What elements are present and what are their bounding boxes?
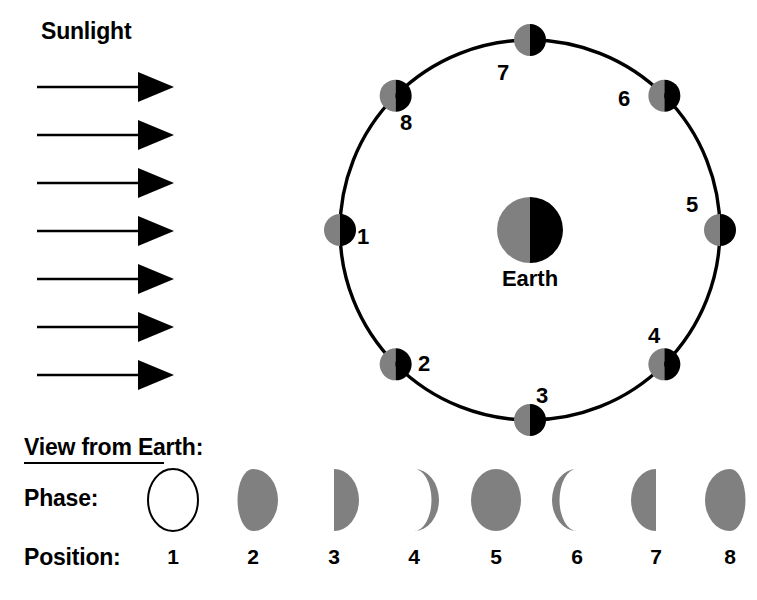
position-number-6: 6 [557,546,597,567]
phase-shapes-group [0,0,757,600]
phase-shape-4-waxing-gibbous [414,469,439,531]
phase-shape-5-full [471,469,521,531]
position-number-8: 8 [710,546,750,567]
moon-phases-diagram: Sunlight Earth 12345678 View from Earth:… [0,0,757,600]
position-number-7: 7 [636,546,676,567]
phase-shape-6-waning-gibbous [552,469,577,531]
phase-shape-7-last-quarter [631,469,656,531]
position-number-4: 4 [394,546,434,567]
phase-shape-8-waning-crescent [705,469,745,531]
position-number-2: 2 [233,546,273,567]
phase-shape-3-first-quarter [334,469,359,531]
position-row-label: Position: [24,546,121,569]
phase-shape-1-new [148,469,198,531]
position-number-5: 5 [476,546,516,567]
phase-shape-2-waxing-crescent [238,469,279,531]
position-number-1: 1 [153,546,193,567]
position-number-3: 3 [314,546,354,567]
